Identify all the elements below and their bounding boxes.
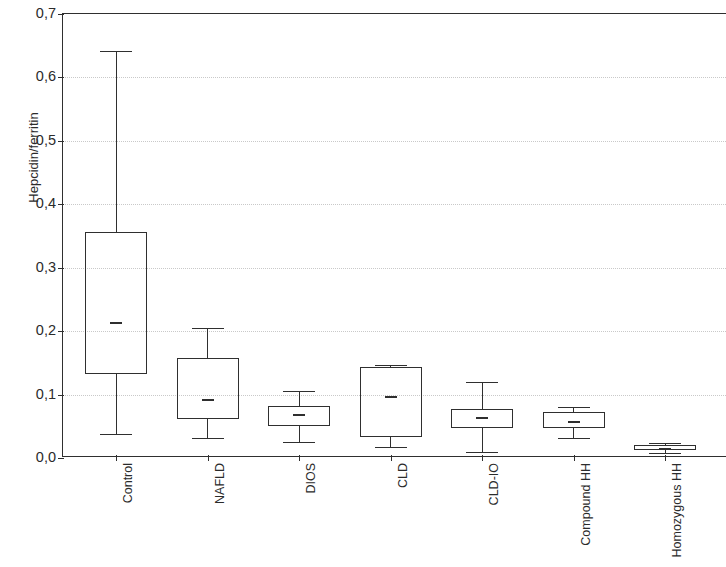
x-axis-tick-mark [116,455,117,461]
y-axis-tick-mark [58,204,64,205]
x-axis-tick-label: Homozygous HH [670,463,684,557]
lower-whisker [482,428,483,451]
box-plot-chart: Hepcidin/ferritin 0,70,60,50,40,30,20,10… [0,0,726,567]
box-iqr [360,367,422,437]
upper-whisker [207,328,208,358]
lower-whisker [299,426,300,442]
lower-whisker-cap [558,438,590,439]
x-axis-tick-mark [391,455,392,461]
upper-whisker-cap [192,328,224,329]
median-marker [202,399,214,401]
upper-whisker-cap [100,51,132,52]
box-plot-group [268,14,330,456]
upper-whisker [482,382,483,409]
upper-whisker-cap [375,365,407,366]
y-axis-tick-mark [58,458,64,459]
box-plot-group [360,14,422,456]
y-axis-tick-label: 0,5 [10,132,56,148]
lower-whisker [116,374,117,434]
lower-whisker [390,437,391,447]
lower-whisker-cap [375,447,407,448]
y-axis-tick-mark [58,331,64,332]
upper-whisker [299,391,300,406]
median-marker [110,322,122,324]
box-plot-group [451,14,513,456]
x-axis-tick-mark [574,455,575,461]
lower-whisker-cap [192,438,224,439]
x-axis-tick-label: NAFLD [213,463,227,504]
y-axis-tick-labels: 0,70,60,50,40,30,20,10,0 [0,0,56,567]
x-axis-tick-label: Control [121,463,135,503]
lower-whisker [573,428,574,438]
x-axis-tick-label: CLD-IO [487,463,501,505]
y-axis-tick-mark [58,268,64,269]
y-axis-tick-label: 0,6 [10,68,56,84]
lower-whisker-cap [649,453,681,454]
x-axis-tick-mark [665,455,666,461]
median-marker [385,396,397,398]
lower-whisker [207,419,208,438]
box-plot-group [85,14,147,456]
y-axis-tick-label: 0,2 [10,322,56,338]
y-axis-tick-mark [58,395,64,396]
y-axis-tick-mark [58,77,64,78]
lower-whisker-cap [466,452,498,453]
median-marker [293,414,305,416]
plot-area [62,13,726,457]
x-axis-tick-label: CLD [396,463,410,488]
y-axis-tick-label: 0,7 [10,5,56,21]
box-plot-group [634,14,696,456]
upper-whisker-cap [283,391,315,392]
upper-whisker-cap [466,382,498,383]
x-axis-tick-mark [299,455,300,461]
y-axis-tick-mark [58,14,64,15]
y-axis-tick-label: 0,4 [10,195,56,211]
lower-whisker-cap [100,434,132,435]
upper-whisker-cap [558,407,590,408]
x-axis-tick-mark [482,455,483,461]
upper-whisker [116,51,117,231]
median-marker [476,417,488,419]
y-axis-tick-label: 0,3 [10,259,56,275]
box-iqr [177,358,239,418]
x-axis-tick-label: Compound HH [579,463,593,546]
x-axis-tick-mark [208,455,209,461]
lower-whisker-cap [283,442,315,443]
y-axis-tick-label: 0,0 [10,449,56,465]
x-axis-tick-label: DIOS [304,463,318,494]
upper-whisker-cap [649,443,681,444]
box-iqr [85,232,147,374]
y-axis-tick-mark [58,141,64,142]
box-plot-group [177,14,239,456]
median-marker [568,421,580,423]
median-marker [659,448,671,450]
box-plot-group [543,14,605,456]
y-axis-tick-label: 0,1 [10,386,56,402]
